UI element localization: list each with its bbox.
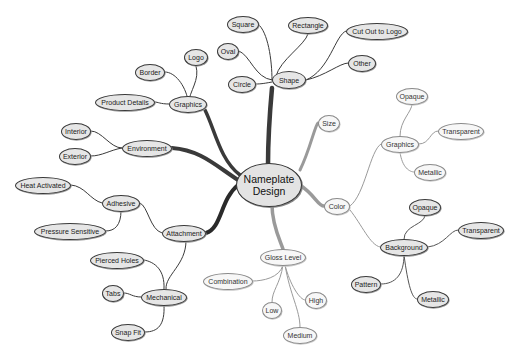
node-label: Metallic	[418, 169, 442, 176]
node-label: Opaque	[400, 93, 425, 100]
node-environment[interactable]: Environment	[122, 140, 172, 157]
node-label: Size	[322, 120, 336, 127]
node-label: Attachment	[166, 230, 201, 237]
node-label: Logo	[188, 54, 204, 61]
root-node-label: Nameplate Design	[243, 173, 295, 197]
node-high[interactable]: High	[305, 292, 327, 309]
node-square[interactable]: Square	[227, 16, 259, 33]
node-transparent-2[interactable]: Transparent	[458, 222, 504, 239]
node-size[interactable]: Size	[318, 115, 340, 132]
link-root-color	[300, 185, 324, 206]
node-graphics-l[interactable]: Graphics	[169, 96, 207, 113]
link-root-gloss	[272, 205, 283, 249]
node-label: Metallic	[421, 296, 445, 303]
node-label: Cut Out to Logo	[352, 28, 401, 35]
node-label: Transparent	[442, 128, 479, 135]
node-circle[interactable]: Circle	[228, 76, 256, 93]
node-label: Pressure Sensitive	[41, 228, 99, 235]
link-root-graphics-l	[205, 110, 240, 175]
node-opaque-2[interactable]: Opaque	[409, 199, 441, 216]
node-logo[interactable]: Logo	[184, 49, 208, 66]
node-opaque-1[interactable]: Opaque	[396, 88, 428, 105]
node-label: Snap Fit	[115, 329, 141, 336]
node-label: Transparent	[462, 227, 499, 234]
node-border[interactable]: Border	[135, 64, 165, 81]
node-pierced-holes[interactable]: Pierced Holes	[90, 252, 144, 269]
node-label: Square	[232, 21, 255, 28]
node-label: Heat Activated	[20, 182, 65, 189]
node-label: Circle	[233, 81, 251, 88]
node-cutout[interactable]: Cut Out to Logo	[346, 23, 408, 40]
node-transparent-1[interactable]: Transparent	[438, 123, 484, 140]
node-label: Gloss Level	[265, 254, 302, 261]
mind-map-canvas: Nameplate Design ShapeSquareRectangleCut…	[0, 0, 514, 357]
node-snap-fit[interactable]: Snap Fit	[111, 324, 145, 341]
node-label: Shape	[279, 77, 299, 84]
node-label: Border	[139, 69, 160, 76]
root-node-nameplate-design[interactable]: Nameplate Design	[236, 163, 302, 207]
node-label: Graphics	[174, 101, 202, 108]
node-label: Tabs	[106, 290, 121, 297]
node-pattern[interactable]: Pattern	[351, 276, 381, 293]
node-label: Interior	[65, 128, 87, 135]
node-label: Oval	[221, 48, 235, 55]
node-shape[interactable]: Shape	[272, 71, 306, 89]
link-root-shape	[268, 88, 272, 165]
node-product-details[interactable]: Product Details	[95, 94, 155, 111]
node-mechanical[interactable]: Mechanical	[141, 289, 187, 306]
node-label: Environment	[127, 145, 166, 152]
node-label: Color	[329, 203, 346, 210]
node-label: Background	[385, 244, 422, 251]
node-adhesive[interactable]: Adhesive	[102, 195, 140, 212]
node-label: Adhesive	[107, 200, 136, 207]
node-label: Opaque	[413, 204, 438, 211]
node-metallic-2[interactable]: Metallic	[417, 291, 449, 308]
node-color[interactable]: Color	[324, 198, 350, 215]
node-gloss-level[interactable]: Gloss Level	[260, 249, 306, 266]
node-tabs[interactable]: Tabs	[102, 285, 124, 302]
node-label: Exterior	[63, 153, 87, 160]
node-graphics-r[interactable]: Graphics	[381, 136, 419, 153]
node-label: Medium	[288, 332, 313, 339]
node-heat-activated[interactable]: Heat Activated	[15, 177, 71, 194]
node-exterior[interactable]: Exterior	[59, 148, 91, 165]
node-interior[interactable]: Interior	[61, 123, 91, 140]
link-root-attachment	[206, 185, 238, 233]
node-label: Rectangle	[292, 22, 324, 29]
node-metallic-1[interactable]: Metallic	[414, 164, 446, 181]
node-label: Low	[266, 307, 279, 314]
node-rectangle[interactable]: Rectangle	[288, 17, 328, 34]
node-low[interactable]: Low	[262, 302, 282, 319]
node-label: Other	[353, 60, 371, 67]
node-label: Pattern	[355, 281, 378, 288]
node-label: Pierced Holes	[95, 257, 139, 264]
node-oval[interactable]: Oval	[217, 43, 239, 60]
node-label: Graphics	[386, 141, 414, 148]
node-medium[interactable]: Medium	[283, 327, 317, 344]
node-combination[interactable]: Combination	[203, 273, 253, 290]
node-pressure-sensitive[interactable]: Pressure Sensitive	[34, 223, 106, 240]
node-label: Combination	[208, 278, 247, 285]
node-label: Mechanical	[146, 294, 181, 301]
node-background[interactable]: Background	[380, 239, 428, 256]
node-label: High	[309, 297, 323, 304]
node-other[interactable]: Other	[348, 55, 376, 72]
link-root-size	[300, 123, 318, 170]
node-attachment[interactable]: Attachment	[162, 225, 206, 242]
node-label: Product Details	[101, 99, 148, 106]
